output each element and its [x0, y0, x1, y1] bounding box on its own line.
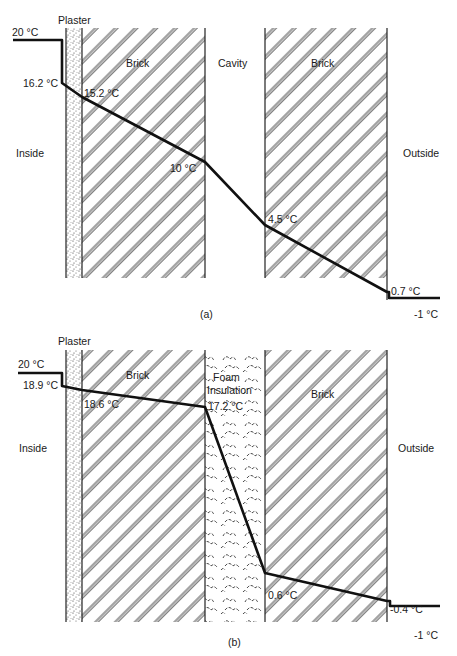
label-outside-a: Outside: [403, 147, 439, 159]
label-outside-b: Outside: [398, 442, 434, 454]
label-brick-inner-a: Brick: [126, 57, 150, 69]
temp-outside-air-b: -1 °C: [414, 629, 438, 641]
temp-outer-surface-b: -0.4 °C: [390, 603, 423, 615]
temp-foam-brick-b: 0.6 °C: [268, 589, 298, 601]
brick-inner-layer-b: [82, 350, 205, 622]
temp-plaster-brick-a: 15.2 °C: [84, 87, 120, 99]
temp-inner-surface-b: 18.9 °C: [23, 379, 59, 391]
diagram-b: Plaster Brick Foam Insulation Brick Insi…: [18, 335, 440, 648]
plaster-layer-a: [66, 28, 82, 278]
label-cavity-a: Cavity: [218, 57, 248, 69]
caption-b: (b): [228, 636, 241, 648]
label-brick-outer-a: Brick: [311, 57, 335, 69]
temp-brick-foam-b: 17.2 °C: [208, 400, 244, 412]
label-inside-b: Inside: [19, 442, 47, 454]
label-inside-a: Inside: [16, 147, 44, 159]
temp-inside-air-b: 20 °C: [18, 358, 45, 370]
diagram-a: Plaster Brick Cavity Brick Inside Outsid…: [12, 14, 440, 320]
temp-brick-cavity-a: 10 °C: [170, 162, 197, 174]
temp-inner-surface-a: 16.2 °C: [23, 77, 59, 89]
temp-plaster-brick-b: 18.6 °C: [84, 398, 120, 410]
label-plaster-a: Plaster: [58, 14, 91, 26]
label-foam-line1-b: Foam: [213, 371, 240, 383]
caption-a: (a): [200, 308, 213, 320]
wall-temperature-diagrams: Plaster Brick Cavity Brick Inside Outsid…: [0, 0, 457, 656]
temp-outside-air-a: -1 °C: [414, 308, 438, 320]
label-brick-inner-b: Brick: [126, 369, 150, 381]
label-plaster-b: Plaster: [58, 335, 91, 347]
label-foam-line2-b: Insulation: [207, 384, 252, 396]
temp-cavity-brick-a: 4.5 °C: [268, 213, 298, 225]
label-brick-outer-b: Brick: [311, 388, 335, 400]
temp-inside-air-a: 20 °C: [12, 26, 39, 38]
temp-outer-surface-a: 0.7 °C: [391, 285, 421, 297]
